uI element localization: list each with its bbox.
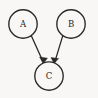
edge-a-to-c: [31, 36, 47, 64]
graph-svg: A B C: [0, 0, 98, 98]
node-c-label: C: [46, 71, 53, 81]
node-a-label: A: [19, 19, 27, 29]
node-c[interactable]: C: [35, 62, 63, 90]
edge-b-to-c: [51, 36, 63, 64]
diagram-canvas: A B C: [0, 0, 98, 98]
edge-b-to-c-line: [55, 36, 63, 62]
node-b-label: B: [68, 19, 74, 29]
node-b[interactable]: B: [57, 10, 85, 38]
node-a[interactable]: A: [9, 10, 37, 38]
